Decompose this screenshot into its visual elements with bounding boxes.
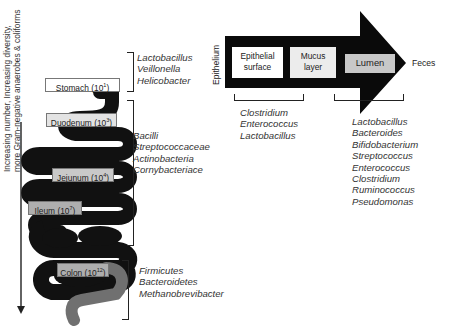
colon-bacteria-list: Firmicutes Bacteroidetes Methanobrevibac… <box>139 265 224 299</box>
axis-label: Increasing number, Increasing diversity,… <box>2 4 22 172</box>
feces-label: Feces <box>412 58 435 68</box>
organ-label-duodenum: Duodenum (103) <box>46 113 117 127</box>
bracket-colon <box>122 260 129 320</box>
colon-shape <box>37 226 129 292</box>
luminal-bacteria-list: Lactobacillus Bacteroides Bifidobacteriu… <box>352 116 418 207</box>
epithelium-label: Epithelium <box>211 35 221 85</box>
stomach-bacteria-list: Lactobacillus Veillonella Helicobacter <box>137 52 192 86</box>
small-intestine-bacteria-list: Bacilli Streptococcaceae Actinobacteria … <box>133 130 210 176</box>
organ-label-stomach: Stomach (101) <box>45 78 120 92</box>
organ-label-ileum: Ileum (107) <box>28 201 82 215</box>
mucosal-bacteria-list: Clostridium Enterococcus Lactobacillus <box>240 107 298 141</box>
bracket-luminal <box>334 94 404 101</box>
zone-mucus-layer: Mucuslayer <box>290 47 336 78</box>
bracket-stomach <box>127 52 134 92</box>
bracket-mucosal <box>234 94 304 101</box>
organ-label-jejunum: Jejunum (104) <box>52 168 114 182</box>
organ-label-colon: Colon (1012) <box>57 263 109 277</box>
zone-epithelial-surface: Epithelialsurface <box>232 47 283 78</box>
down-arrow-icon <box>17 306 25 314</box>
zone-lumen: Lumen <box>345 54 395 73</box>
